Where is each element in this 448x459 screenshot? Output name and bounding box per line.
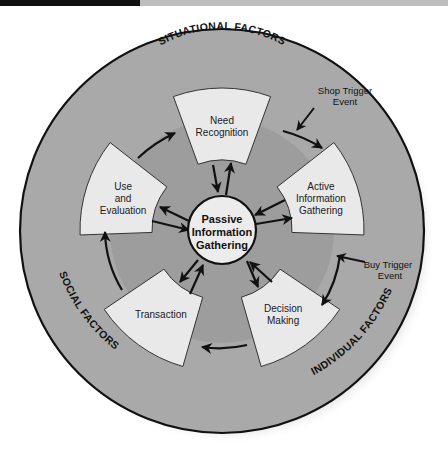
stage-label-decision-making: Making — [267, 315, 299, 326]
shop-trigger-line1: Shop Trigger — [318, 85, 372, 96]
buy-trigger-line1: Buy Trigger — [364, 259, 413, 270]
stage-label-use-and-evaluation: and — [115, 193, 132, 204]
stage-label-use-and-evaluation: Evaluation — [100, 205, 147, 216]
stage-label-transaction: Transaction — [135, 309, 187, 320]
stage-label-active-information-gathering: Information — [296, 193, 346, 204]
center-label-line1: Passive — [202, 213, 243, 225]
stage-label-need-recognition: Need — [210, 115, 234, 126]
stage-label-active-information-gathering: Gathering — [299, 205, 343, 216]
consumer-decision-diagram: SITUATIONAL FACTORS SOCIAL FACTORS INDIV… — [0, 0, 448, 459]
stage-label-decision-making: Decision — [264, 303, 302, 314]
center-label-line2: Information — [192, 226, 253, 238]
stage-label-need-recognition: Recognition — [196, 127, 249, 138]
center-label-line3: Gathering — [196, 239, 248, 251]
buy-trigger-line2: Event — [378, 270, 403, 281]
stage-label-active-information-gathering: Active — [307, 181, 335, 192]
stage-label-use-and-evaluation: Use — [114, 181, 132, 192]
shop-trigger-line2: Event — [333, 96, 358, 107]
